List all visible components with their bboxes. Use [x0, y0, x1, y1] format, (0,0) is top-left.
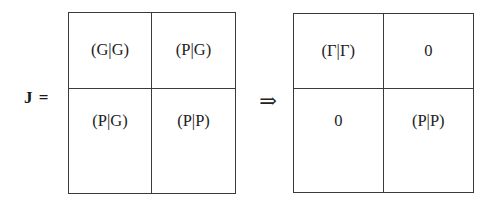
- matrix-before-cell-1-0: (P|G): [69, 89, 152, 193]
- matrix-after-cell-1-0: 0: [294, 89, 384, 192]
- matrix-after-cell-1-1: (P|P): [384, 89, 474, 192]
- matrix-before-cell-0-1: (P|G): [152, 13, 235, 89]
- implies-arrow-icon: ⇒: [253, 86, 283, 116]
- matrix-before-cell-1-1: (P|P): [152, 89, 235, 193]
- matrix-after-cell-0-1: 0: [384, 14, 474, 89]
- matrix-after-cell-0-0: (Γ|Γ): [294, 14, 384, 89]
- matrix-before-cell-0-0: (G|G): [69, 13, 152, 89]
- matrix-after: (Γ|Γ) 0 0 (P|P): [293, 13, 474, 193]
- equation-label: J =: [24, 88, 49, 108]
- matrix-before: (G|G) (P|G) (P|G) (P|P): [68, 12, 236, 194]
- matrix-transformation-figure: J = (G|G) (P|G) (P|G) (P|P) ⇒ (Γ|Γ) 0 0 …: [0, 0, 490, 207]
